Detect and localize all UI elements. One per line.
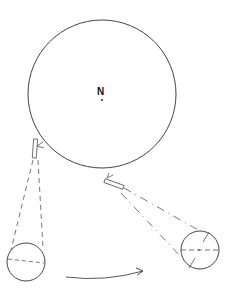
diagram-canvas [0, 0, 230, 294]
left-view-circle [7, 243, 45, 281]
center-dot [101, 99, 103, 101]
right-view-circle [181, 231, 219, 269]
center-label: N [97, 86, 104, 97]
right-tube-icon [104, 173, 124, 189]
rotation-arrow-icon [66, 268, 143, 279]
left-tube-icon [32, 139, 44, 158]
left-sight-lines [11, 160, 43, 250]
right-sight-lines [121, 188, 200, 258]
